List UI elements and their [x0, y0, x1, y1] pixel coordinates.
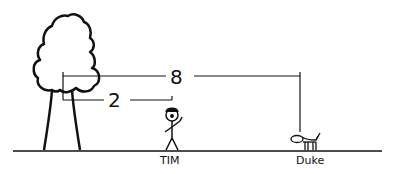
tree-icon [34, 14, 99, 150]
diagram-canvas: 8 2 TIM Duke [0, 0, 401, 174]
dog-label: Duke [296, 154, 324, 167]
distance-8-label: 8 [170, 65, 183, 89]
person-icon [165, 108, 182, 150]
dog-icon [291, 133, 320, 150]
person-label: TIM [159, 154, 179, 167]
distance-2-label: 2 [108, 88, 121, 112]
